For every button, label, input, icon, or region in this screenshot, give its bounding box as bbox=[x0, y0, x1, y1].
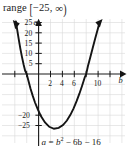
equation-caption: a=b2− 6b− 16 bbox=[42, 135, 102, 146]
parabola-chart: a b 2 4 6 10 bbox=[0, 17, 127, 148]
interval-lower-bound: −25, bbox=[33, 2, 52, 13]
x-tick-label-2: 2 bbox=[48, 79, 52, 88]
curve-arrow-right bbox=[95, 19, 102, 28]
range-label: range bbox=[3, 2, 27, 13]
equation-equals: = bbox=[49, 137, 54, 147]
equation-term-2: − 6b bbox=[66, 137, 83, 147]
equation-term-3: − 16 bbox=[85, 137, 102, 147]
x-tick-label-4: 4 bbox=[60, 79, 64, 88]
interval-open-bracket: [ bbox=[30, 0, 33, 16]
y-tick-label-10: 10 bbox=[25, 49, 33, 58]
infinity-symbol: ∞ bbox=[55, 2, 63, 14]
grid-vertical bbox=[15, 19, 122, 143]
y-tick-label-5: 5 bbox=[29, 59, 33, 68]
y-tick-label-25: 25 bbox=[25, 18, 33, 27]
figure-root: range [−25, ∞) bbox=[0, 0, 127, 148]
equation-exponent: 2 bbox=[61, 135, 64, 142]
y-axis bbox=[35, 19, 42, 146]
y-tick-label-15: 15 bbox=[25, 39, 33, 48]
x-tick-label-10: 10 bbox=[94, 79, 102, 88]
y-tick-label-20: 20 bbox=[25, 29, 33, 38]
y-tick-label-neg20: −20 bbox=[18, 111, 30, 120]
x-axis-label: b bbox=[119, 76, 123, 85]
equation-lhs: a bbox=[42, 137, 47, 147]
range-annotation: range [−25, ∞) bbox=[3, 1, 67, 13]
interval-close-paren: ) bbox=[63, 0, 66, 16]
y-tick-label-neg25: −25 bbox=[18, 121, 30, 130]
x-axis bbox=[2, 71, 127, 78]
x-tick-label-6: 6 bbox=[72, 79, 76, 88]
